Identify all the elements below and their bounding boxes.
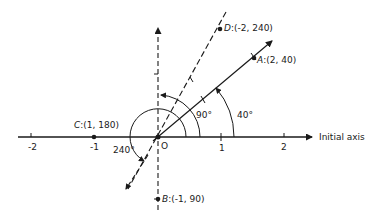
- polar-diagram: -2 -1 O 1 2 Initial axis A:(2, 40) D:(-2…: [0, 0, 381, 217]
- origin-point: [156, 135, 161, 140]
- angle-label-90: 90°: [196, 110, 212, 120]
- point-d: [218, 27, 223, 32]
- tick-label-2: 2: [281, 142, 287, 152]
- tick-label-1: 1: [219, 143, 225, 153]
- initial-axis: [18, 133, 312, 141]
- arc-90-degrees: [161, 95, 200, 137]
- arc-40-degrees: [216, 88, 234, 137]
- origin-label: O: [161, 141, 168, 151]
- point-c-label: C:(1, 180): [74, 120, 119, 130]
- angle-label-240: 240°: [113, 145, 135, 155]
- initial-axis-label: Initial axis: [319, 132, 365, 142]
- angle-label-40: 40°: [237, 110, 253, 120]
- tick-label-neg2: -2: [28, 142, 37, 152]
- point-a-label: A:(2, 40): [256, 55, 296, 65]
- point-d-label: D:(-2, 240): [224, 23, 273, 33]
- point-c: [92, 135, 97, 140]
- ray-240-arrow: [126, 155, 148, 189]
- point-b-label: B:(-1, 90): [162, 194, 204, 204]
- tick-label-neg1: -1: [90, 142, 99, 152]
